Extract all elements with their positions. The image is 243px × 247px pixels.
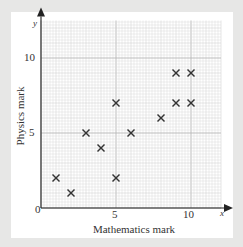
y-tick-5: 5 [29, 126, 35, 138]
x-tick-10: 10 [183, 208, 195, 220]
x-axis-label: Mathematics mark [93, 223, 176, 235]
x-axis-letter: x [219, 208, 224, 218]
y-axis-label: Physics mark [14, 86, 26, 145]
y-tick-10: 10 [24, 51, 36, 63]
scatter-chart: y x 0 5 10 5 10 Mathematics mark Physics… [0, 0, 243, 247]
origin-label: 0 [35, 203, 41, 215]
y-axis-letter: y [32, 18, 37, 28]
x-tick-5: 5 [112, 208, 118, 220]
axes [37, 8, 233, 213]
grid [41, 21, 221, 209]
